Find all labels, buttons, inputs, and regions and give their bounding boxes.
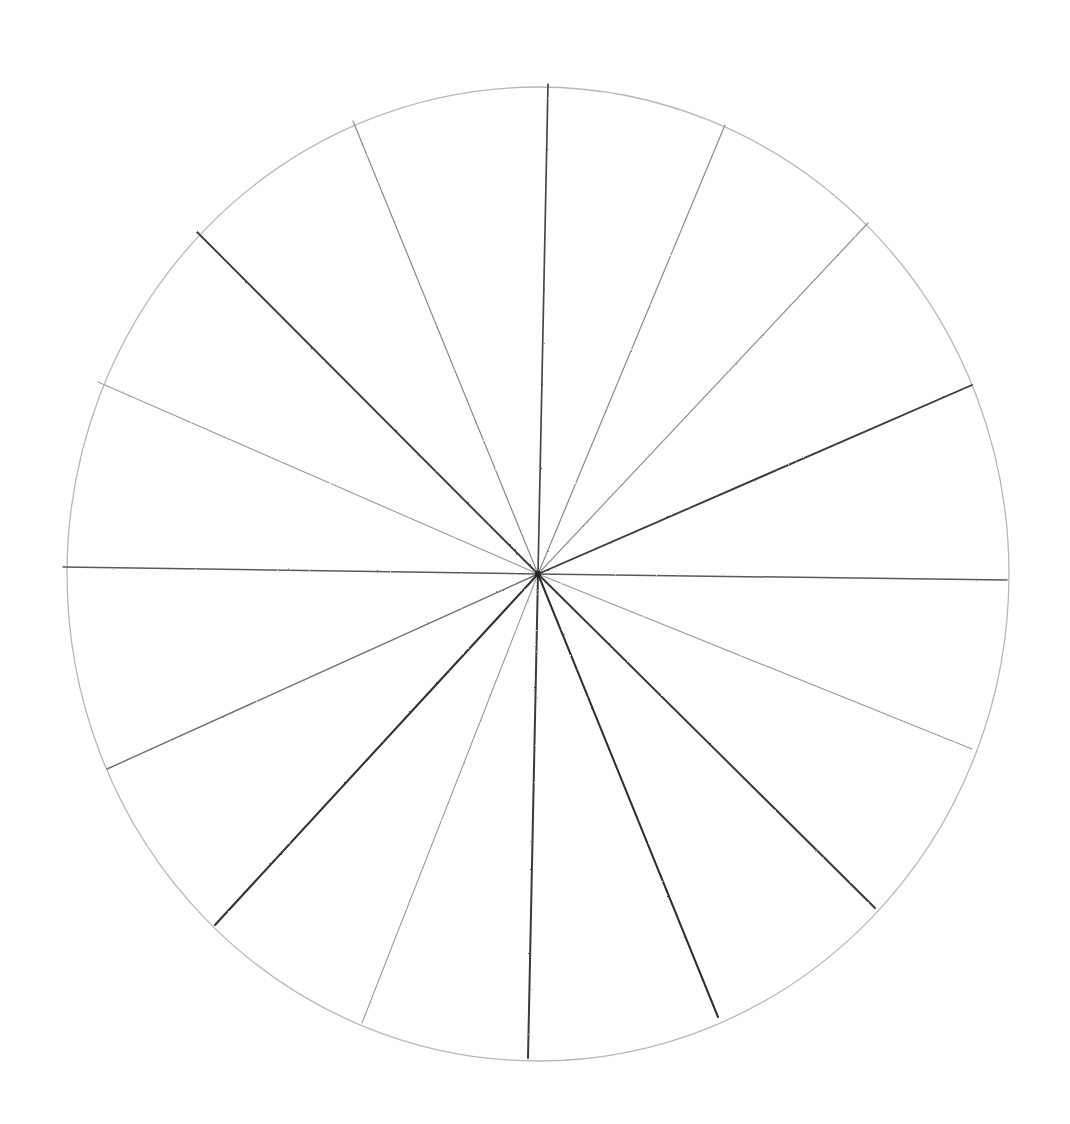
paper-background	[0, 0, 1070, 1124]
center-hub-group	[535, 571, 541, 577]
drawing-canvas	[0, 0, 1070, 1124]
center-hub-dot	[535, 571, 541, 577]
radial-spoke-figure	[0, 0, 1070, 1124]
